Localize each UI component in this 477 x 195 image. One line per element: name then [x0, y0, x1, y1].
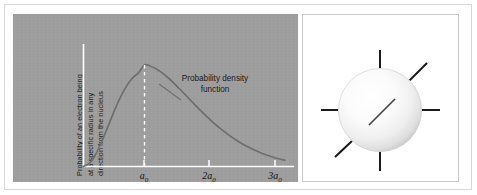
x-tick-label-2a0: 2a0: [194, 170, 224, 182]
chart-annotation: Probability density function: [161, 74, 269, 95]
figure-root: Probability of an electron being at a sp…: [0, 0, 477, 195]
x-tick-label-a0: a0: [131, 170, 157, 182]
chart-plot-area: [13, 14, 298, 182]
sphere-diagram: [303, 15, 458, 181]
electron-cloud-sphere-panel: [302, 14, 459, 182]
x-tick-label-3a0: 3a0: [260, 170, 290, 182]
chart-annotation-line-1: Probability density: [161, 74, 269, 85]
probability-density-chart-panel: Probability of an electron being at a sp…: [13, 14, 298, 182]
chart-annotation-line-2: function: [161, 85, 269, 96]
